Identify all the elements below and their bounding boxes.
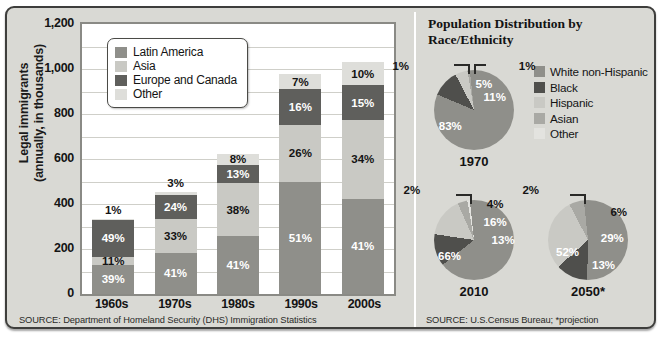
bar-segment-value: 39%	[102, 273, 125, 285]
bar-segment-latin-america: 39%	[92, 265, 134, 294]
bar-segment-other: 7%	[279, 74, 321, 89]
bar-segment-asia: 33%	[155, 219, 197, 252]
pie-slice-value-1970-other: 1%	[392, 60, 409, 72]
x-axis-tick-2000s: 2000s	[343, 297, 385, 315]
x-axis-tick-1980s: 1980s	[217, 297, 259, 315]
bar-legend-label: Asia	[133, 60, 156, 73]
legend-swatch-icon	[115, 61, 127, 72]
bar-chart-plot-area: Latin AmericaAsiaEurope and CanadaOther …	[80, 22, 396, 296]
bar-legend-label: Other	[133, 88, 162, 101]
legend-swatch-icon	[534, 82, 545, 93]
bar-segment-value: 26%	[289, 147, 312, 159]
bar-segment-value: 3%	[167, 177, 184, 189]
immigration-bar-chart-panel: Legal immigrants (annually, in thousands…	[7, 8, 414, 327]
bar-segment-asia: 11%	[92, 257, 134, 265]
legend-swatch-icon	[534, 128, 545, 139]
bar-legend-item-other: Other	[115, 87, 237, 101]
pie-legend-label: Black	[550, 81, 578, 94]
y-axis-tick-1000: 1,000	[14, 61, 74, 75]
bar-chart-legend: Latin AmericaAsiaEurope and CanadaOther	[107, 38, 248, 108]
pie-legend-label: Asian	[550, 112, 578, 125]
bar-legend-label: Europe and Canada	[133, 74, 237, 87]
pie-slice-value-2010-other: 2%	[404, 184, 421, 196]
population-panel-title: Population Distribution by Race/Ethnicit…	[428, 16, 643, 48]
pie-legend-item-hispanic: Hispanic	[534, 95, 648, 111]
bar-segment-asia: 38%	[217, 183, 259, 236]
pie-slice-value-2050-asian: 6%	[610, 206, 627, 218]
y-axis-tick-200: 200	[14, 241, 74, 255]
legend-swatch-icon	[115, 89, 127, 100]
pie-slice-value-2010-asian: 4%	[487, 198, 504, 210]
pie-slice-value-1970-hispanic: 5%	[476, 78, 493, 90]
bar-segment-latin-america: 41%	[155, 253, 197, 294]
bar-segment-other: 10%	[342, 62, 384, 85]
population-pie-panel: Population Distribution by Race/Ethnicit…	[416, 8, 656, 327]
bar-legend-label: Latin America	[133, 46, 203, 59]
pie-legend-label: Hispanic	[550, 96, 593, 109]
pie-slice-value-2010-white-non-hispanic: 66%	[438, 250, 461, 262]
pie-slice-value-2050-other: 2%	[522, 184, 539, 196]
bar-segment-europe-and-canada: 15%	[342, 85, 384, 120]
x-axis-tick-1970s: 1970s	[154, 297, 196, 315]
bar-segment-value: 8%	[230, 153, 247, 165]
bar-segment-value: 34%	[351, 153, 374, 165]
bar-segment-latin-america: 51%	[279, 182, 321, 294]
panel-title-line-2: Race/Ethnicity	[428, 32, 514, 47]
y-axis-tick-1200: 1,200	[14, 16, 74, 30]
pie-slice-value-1970-asian: 1%	[519, 60, 536, 72]
pie-slice-value-2050-hispanic: 29%	[601, 232, 624, 244]
panel-title-line-1: Population Distribution by	[428, 16, 583, 31]
legend-swatch-icon	[534, 66, 545, 77]
infographic-root: Legal immigrants (annually, in thousands…	[0, 0, 663, 339]
pie-chart-legend: White non-HispanicBlackHispanicAsianOthe…	[534, 64, 648, 142]
pie-legend-item-black: Black	[534, 80, 648, 96]
pie-slice-value-2050-white-non-hispanic: 52%	[556, 246, 579, 258]
y-axis-tick-0: 0	[14, 286, 74, 300]
bar-segment-asia: 26%	[279, 125, 321, 182]
bar-segment-europe-and-canada: 24%	[155, 195, 197, 219]
bar-segment-value: 41%	[164, 267, 187, 279]
y-axis-tick-400: 400	[14, 196, 74, 210]
pie-label-leader-line	[468, 64, 470, 74]
bar-segment-value: 49%	[102, 232, 125, 244]
bar-segment-value: 41%	[351, 240, 374, 252]
bar-column-2000s: 10%15%34%41%	[342, 24, 384, 294]
x-axis-tick-1990s: 1990s	[280, 297, 322, 315]
pie-legend-item-white-non-hispanic: White non-Hispanic	[534, 64, 648, 80]
pie-legend-label: White non-Hispanic	[550, 65, 648, 78]
bar-segment-value: 7%	[292, 76, 309, 88]
bar-chart-x-axis-ticks: 1960s1970s1980s1990s2000s	[80, 297, 396, 315]
pie-chart-year-2010: 2010	[434, 284, 514, 299]
y-axis-tick-600: 600	[14, 151, 74, 165]
bar-segment-value: 51%	[289, 232, 312, 244]
legend-swatch-icon	[534, 97, 545, 108]
pie-chart-year-2050: 2050*	[548, 284, 628, 299]
pie-legend-label: Other	[550, 127, 578, 140]
y-axis-tick-800: 800	[14, 106, 74, 120]
pie-chart-year-1970: 1970	[434, 154, 514, 169]
bar-segment-value: 38%	[226, 204, 249, 216]
pie-legend-item-asian: Asian	[534, 111, 648, 127]
bar-segment-value: 41%	[226, 259, 249, 271]
pie-slice-value-2050-black: 13%	[592, 259, 615, 271]
bar-segment-europe-and-canada: 13%	[217, 165, 259, 183]
bar-segment-latin-america: 41%	[342, 199, 384, 294]
legend-swatch-icon	[115, 47, 127, 58]
bar-segment-value: 16%	[289, 101, 312, 113]
pie-label-leader-line	[570, 194, 585, 196]
bar-segment-other: 8%	[217, 154, 259, 165]
bar-segment-value: 10%	[351, 68, 374, 80]
bar-legend-item-latin-america: Latin America	[115, 45, 237, 59]
pie-slice-value-1970-white-non-hispanic: 83%	[439, 120, 462, 132]
bar-segment-asia: 34%	[342, 120, 384, 199]
x-axis-tick-1960s: 1960s	[91, 297, 133, 315]
bar-legend-item-europe-and-canada: Europe and Canada	[115, 73, 237, 87]
bar-segment-value: 24%	[164, 201, 187, 213]
bar-segment-europe-and-canada: 16%	[279, 89, 321, 124]
pie-label-leader-line	[456, 194, 471, 196]
top-crop-strip	[0, 0, 663, 5]
pie-slice-value-1970-black: 11%	[484, 91, 506, 103]
bar-segment-latin-america: 41%	[217, 236, 259, 294]
pie-label-leader-line	[470, 194, 472, 204]
bar-segment-value: 11%	[102, 255, 124, 267]
